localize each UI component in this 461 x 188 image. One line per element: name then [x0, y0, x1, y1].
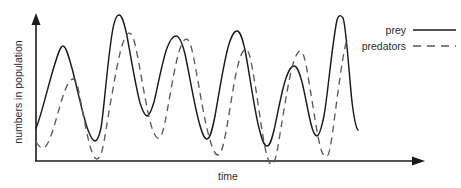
chart-axes: [32, 13, 426, 166]
x-axis-arrowhead: [412, 157, 425, 166]
predator-prey-chart: numbers in population time prey predator…: [0, 0, 461, 188]
y-axis-title: numbers in population: [12, 40, 24, 143]
x-axis-title: time: [218, 170, 238, 182]
legend-label-predators: predators: [362, 40, 406, 52]
series-line-predators: [36, 33, 347, 165]
chart-legend: prey predators: [362, 24, 456, 52]
chart-series-group: [36, 15, 358, 165]
legend-label-prey: prey: [386, 24, 407, 36]
y-axis-arrowhead: [32, 13, 41, 25]
series-line-prey: [36, 15, 358, 146]
